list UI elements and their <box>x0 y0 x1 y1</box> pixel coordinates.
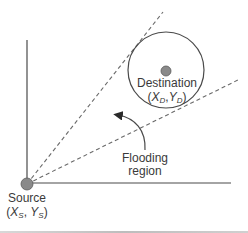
flooding-region-label-line2: region <box>120 165 170 178</box>
flooding-region-label: Flooding region <box>120 152 170 178</box>
destination-coordinates: (XD,YD) <box>136 91 198 107</box>
source-node-icon <box>21 178 33 190</box>
bottom-divider <box>0 231 248 233</box>
source-label: Source <box>4 192 50 205</box>
source-title: Source <box>8 191 46 205</box>
destination-title: Destination <box>137 76 197 90</box>
destination-node-icon <box>161 66 171 76</box>
source-coordinates: (XS, YS) <box>4 206 50 222</box>
flooding-region-arrow-icon <box>118 115 145 150</box>
destination-label: Destination <box>136 77 198 90</box>
